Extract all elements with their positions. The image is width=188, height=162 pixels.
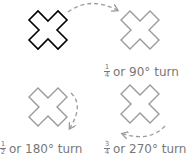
arrow-270-icon bbox=[123, 126, 165, 137]
three-quarter-turn-cross-shape bbox=[121, 85, 159, 123]
half-turn-cross-shape bbox=[29, 88, 67, 126]
original-cross-shape bbox=[29, 11, 67, 49]
fraction: 34 bbox=[104, 141, 110, 156]
arrow-90-icon bbox=[68, 3, 117, 12]
fraction: 14 bbox=[104, 64, 110, 79]
label-180: 12 or 180° turn bbox=[0, 141, 82, 156]
label-270: 34 or 270° turn bbox=[104, 141, 186, 156]
label-90: 14 or 90° turn bbox=[104, 64, 179, 79]
diagram bbox=[0, 0, 188, 162]
quarter-turn-cross-shape bbox=[121, 11, 159, 49]
arrow-180-icon bbox=[70, 93, 77, 128]
fraction: 12 bbox=[0, 141, 6, 156]
